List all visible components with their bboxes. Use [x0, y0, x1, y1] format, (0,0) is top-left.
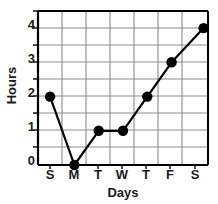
- x-tick-label-2: T: [88, 167, 108, 183]
- grid-lines-vertical: [38, 11, 208, 165]
- y-tick-label-4: 4: [21, 18, 35, 32]
- y-tick-label-2: 2: [21, 86, 35, 100]
- x-tick-label-1: M: [64, 167, 84, 183]
- x-tick-label-3: W: [112, 167, 132, 183]
- y-tick-label-0: 0: [21, 154, 35, 168]
- x-tick-label-5: F: [160, 167, 180, 183]
- x-tick-label-4: T: [136, 167, 156, 183]
- y-axis-tick-labels: 4 3 2 1 0: [20, 0, 35, 204]
- y-tick-label-1: 1: [21, 120, 35, 134]
- x-tick-label-0: S: [40, 167, 60, 183]
- y-axis-title: Hours: [4, 58, 19, 114]
- data-point-t-1: [94, 126, 104, 136]
- data-point-s2-4: [198, 23, 208, 33]
- x-tick-label-6: S: [185, 167, 205, 183]
- y-tick-label-3: 3: [21, 52, 35, 66]
- data-point-f-3: [166, 57, 176, 67]
- data-point-s-2: [45, 91, 55, 101]
- x-axis-title: Days: [38, 185, 208, 200]
- data-point-w-1: [118, 126, 128, 136]
- line-chart: Hours 4 3 2 1 0: [0, 0, 218, 204]
- data-point-t2-2: [142, 91, 152, 101]
